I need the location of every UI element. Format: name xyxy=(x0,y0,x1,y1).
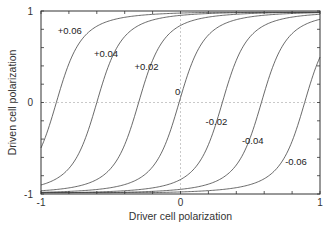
curve-label: -0.04 xyxy=(242,135,264,146)
curve-label: +0.04 xyxy=(94,48,118,59)
curve-labels: +0.06+0.04+0.020-0.02-0.04-0.06 xyxy=(58,25,307,167)
y-tick-bottom: -1 xyxy=(24,189,33,200)
x-tick-mid: 0 xyxy=(178,197,184,208)
y-tick-mid: 0 xyxy=(27,97,33,108)
y-tick-top: 1 xyxy=(27,6,33,17)
curve-label: +0.06 xyxy=(58,25,82,36)
polarization-chart: +0.06+0.04+0.020-0.02-0.04-0.06 1 0 -1 -… xyxy=(0,0,328,225)
curve-label: -0.02 xyxy=(206,116,228,127)
curve-label: -0.06 xyxy=(285,156,307,167)
curve-label: +0.02 xyxy=(134,61,158,72)
x-tick-right: 1 xyxy=(317,197,323,208)
curve-label: 0 xyxy=(175,86,180,97)
x-axis-title: Driver cell polarization xyxy=(129,210,232,222)
x-tick-left: -1 xyxy=(37,197,46,208)
y-axis-title: Driven cell polarization xyxy=(6,50,18,156)
